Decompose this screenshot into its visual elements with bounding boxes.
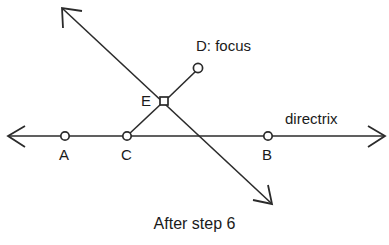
point-marker-c[interactable] — [123, 132, 131, 140]
geometry-figure: A C B E D: focus directrix After step 6 — [0, 0, 389, 245]
figure-caption: After step 6 — [0, 216, 389, 232]
point-marker-e[interactable] — [160, 97, 168, 105]
point-marker-b[interactable] — [264, 132, 272, 140]
point-label-a: A — [59, 147, 69, 162]
point-marker-a[interactable] — [61, 132, 69, 140]
point-label-d-focus: D: focus — [196, 38, 251, 53]
directrix-label: directrix — [285, 111, 338, 126]
point-label-c: C — [121, 147, 132, 162]
point-label-e: E — [141, 93, 151, 108]
point-label-b: B — [262, 147, 272, 162]
segment-e-to-d — [168, 71, 196, 98]
point-marker-d[interactable] — [193, 63, 202, 72]
